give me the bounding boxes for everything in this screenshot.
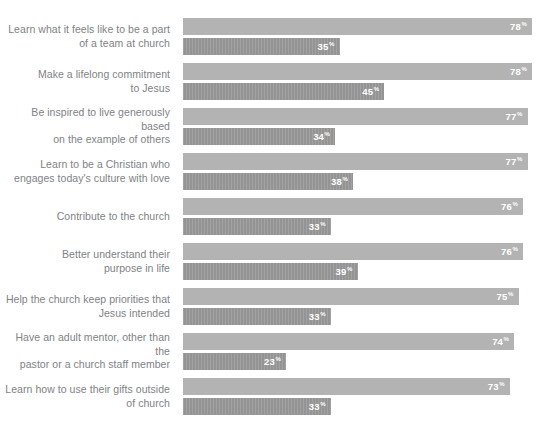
bar-series-2: 35% xyxy=(183,38,340,55)
bar-series-1: 77% xyxy=(183,153,528,170)
bar-value-label: 73% xyxy=(488,381,505,392)
bar-pair: 73%33% xyxy=(183,378,541,415)
bar-pair: 76%39% xyxy=(183,243,541,280)
bar-series-1: 78% xyxy=(183,63,532,80)
bar-pair: 75%33% xyxy=(183,288,541,325)
bar-value-label: 76% xyxy=(501,246,518,257)
bar-value-label: 74% xyxy=(492,336,509,347)
percent-sign: % xyxy=(343,176,349,182)
percent-sign: % xyxy=(320,401,326,407)
bar-series-2: 23% xyxy=(183,353,286,370)
bar-series-1: 76% xyxy=(183,243,523,260)
chart-row: Learn how to use their gifts outside of … xyxy=(0,378,541,415)
bar-pair: 76%33% xyxy=(183,198,541,235)
percent-sign: % xyxy=(504,336,510,342)
bar-value-label: 77% xyxy=(506,156,523,167)
bar-series-2: 33% xyxy=(183,218,331,235)
category-label: Contribute to the church xyxy=(0,198,183,235)
percent-sign: % xyxy=(522,21,528,27)
category-label: Learn to be a Christian who engages toda… xyxy=(0,153,183,190)
percent-sign: % xyxy=(275,356,281,362)
bar-series-2: 34% xyxy=(183,128,335,145)
bar-pair: 77%34% xyxy=(183,108,541,145)
bar-pair: 78%35% xyxy=(183,18,541,55)
bar-value-label: 33% xyxy=(309,401,326,412)
bar-value-label: 35% xyxy=(318,41,335,52)
percent-sign: % xyxy=(508,291,514,297)
bar-series-1: 74% xyxy=(183,333,514,350)
bar-series-1: 77% xyxy=(183,108,528,125)
bar-value-label: 45% xyxy=(362,86,379,97)
percent-sign: % xyxy=(517,156,523,162)
category-label: Be inspired to live generously based on … xyxy=(0,108,183,145)
percent-sign: % xyxy=(320,221,326,227)
percent-sign: % xyxy=(320,311,326,317)
percent-sign: % xyxy=(513,201,519,207)
bar-value-label: 34% xyxy=(313,131,330,142)
horizontal-bar-chart: Learn what it feels like to be a part of… xyxy=(0,0,541,444)
bar-value-label: 33% xyxy=(309,311,326,322)
percent-sign: % xyxy=(374,86,380,92)
chart-row: Be inspired to live generously based on … xyxy=(0,108,541,145)
bar-series-2: 33% xyxy=(183,308,331,325)
bar-value-label: 39% xyxy=(336,266,353,277)
chart-row: Better understand their purpose in life7… xyxy=(0,243,541,280)
bar-series-2: 45% xyxy=(183,83,384,100)
bar-series-1: 76% xyxy=(183,198,523,215)
chart-row: Contribute to the church76%33% xyxy=(0,198,541,235)
percent-sign: % xyxy=(325,131,331,137)
bar-pair: 77%38% xyxy=(183,153,541,190)
bar-series-2: 38% xyxy=(183,173,353,190)
bar-value-label: 78% xyxy=(510,66,527,77)
bar-value-label: 38% xyxy=(331,176,348,187)
percent-sign: % xyxy=(499,381,505,387)
percent-sign: % xyxy=(517,111,523,117)
bar-pair: 78%45% xyxy=(183,63,541,100)
category-label: Help the church keep priorities that Jes… xyxy=(0,288,183,325)
bar-value-label: 23% xyxy=(264,356,281,367)
category-label: Have an adult mentor, other than the pas… xyxy=(0,333,183,370)
percent-sign: % xyxy=(522,66,528,72)
chart-row: Learn to be a Christian who engages toda… xyxy=(0,153,541,190)
percent-sign: % xyxy=(329,41,335,47)
bar-series-2: 33% xyxy=(183,398,331,415)
category-label: Better understand their purpose in life xyxy=(0,243,183,280)
percent-sign: % xyxy=(347,266,353,272)
category-label: Make a lifelong commitment to Jesus xyxy=(0,63,183,100)
bar-value-label: 76% xyxy=(501,201,518,212)
chart-row: Make a lifelong commitment to Jesus78%45… xyxy=(0,63,541,100)
category-label: Learn how to use their gifts outside of … xyxy=(0,378,183,415)
bar-value-label: 75% xyxy=(497,291,514,302)
bar-value-label: 77% xyxy=(506,111,523,122)
percent-sign: % xyxy=(513,246,519,252)
bar-series-1: 75% xyxy=(183,288,519,305)
chart-row: Learn what it feels like to be a part of… xyxy=(0,18,541,55)
bar-pair: 74%23% xyxy=(183,333,541,370)
bar-value-label: 33% xyxy=(309,221,326,232)
chart-row: Help the church keep priorities that Jes… xyxy=(0,288,541,325)
bar-series-1: 73% xyxy=(183,378,510,395)
chart-row: Have an adult mentor, other than the pas… xyxy=(0,333,541,370)
bar-series-1: 78% xyxy=(183,18,532,35)
bar-value-label: 78% xyxy=(510,21,527,32)
category-label: Learn what it feels like to be a part of… xyxy=(0,18,183,55)
bar-series-2: 39% xyxy=(183,263,358,280)
